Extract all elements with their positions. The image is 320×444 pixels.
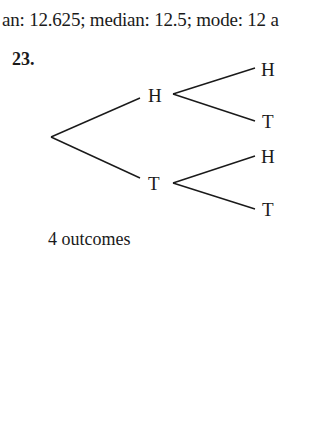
node-level1-h: H xyxy=(148,86,162,105)
node-hh: H xyxy=(261,60,275,79)
branch-h-t xyxy=(173,94,255,121)
branch-root-h xyxy=(51,98,140,137)
node-th: H xyxy=(261,147,275,166)
outcomes-caption: 4 outcomes xyxy=(48,229,131,250)
node-tt: T xyxy=(262,200,274,219)
branch-h-h xyxy=(173,68,255,94)
branch-root-t xyxy=(51,137,140,178)
node-ht: T xyxy=(262,112,274,131)
branch-t-h xyxy=(173,156,255,183)
node-level1-t: T xyxy=(148,174,160,193)
branch-t-t xyxy=(173,183,255,209)
